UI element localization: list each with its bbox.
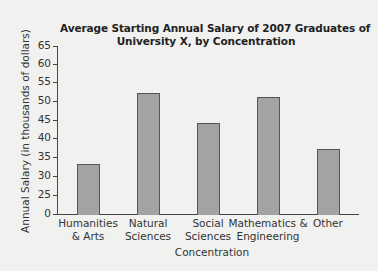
- x-category-label: Other: [288, 217, 368, 230]
- y-tick: [53, 157, 57, 158]
- y-axis-label: Annual Salary (in thousands of dollars): [19, 29, 31, 233]
- y-tick-label: 50: [31, 94, 51, 106]
- y-tick-label: 60: [31, 57, 51, 69]
- y-tick: [53, 82, 57, 83]
- y-tick-label: 25: [31, 188, 51, 200]
- x-category-label-line: Other: [288, 217, 368, 230]
- y-tick: [53, 120, 57, 121]
- x-axis-label: Concentration: [175, 246, 249, 258]
- chart-title-line-2: University X, by Concentration: [60, 35, 352, 48]
- chart-title: Average Starting Annual Salary of 2007 G…: [60, 22, 352, 48]
- y-axis-line: [57, 46, 58, 214]
- y-tick: [53, 138, 57, 139]
- bar-humanities-arts: [77, 164, 100, 215]
- bar-natural-sciences: [137, 93, 160, 215]
- y-tick-label: 30: [31, 169, 51, 181]
- bar-social-sciences: [197, 123, 220, 215]
- y-tick-label: 55: [31, 75, 51, 87]
- y-tick: [53, 176, 57, 177]
- chart-title-line-1: Average Starting Annual Salary of 2007 G…: [60, 22, 352, 35]
- bar-other: [317, 149, 340, 215]
- y-tick-label: 35: [31, 150, 51, 162]
- y-tick: [53, 46, 57, 47]
- y-tick: [53, 101, 57, 102]
- x-category-label-line: Engineering: [228, 230, 308, 243]
- bar-mathematics-engineering: [257, 97, 280, 215]
- y-tick: [53, 64, 57, 65]
- y-tick: [53, 214, 57, 215]
- y-tick-label: 45: [31, 113, 51, 125]
- y-tick-label: 65: [31, 39, 51, 51]
- y-tick-label: 40: [31, 131, 51, 143]
- y-tick: [53, 195, 57, 196]
